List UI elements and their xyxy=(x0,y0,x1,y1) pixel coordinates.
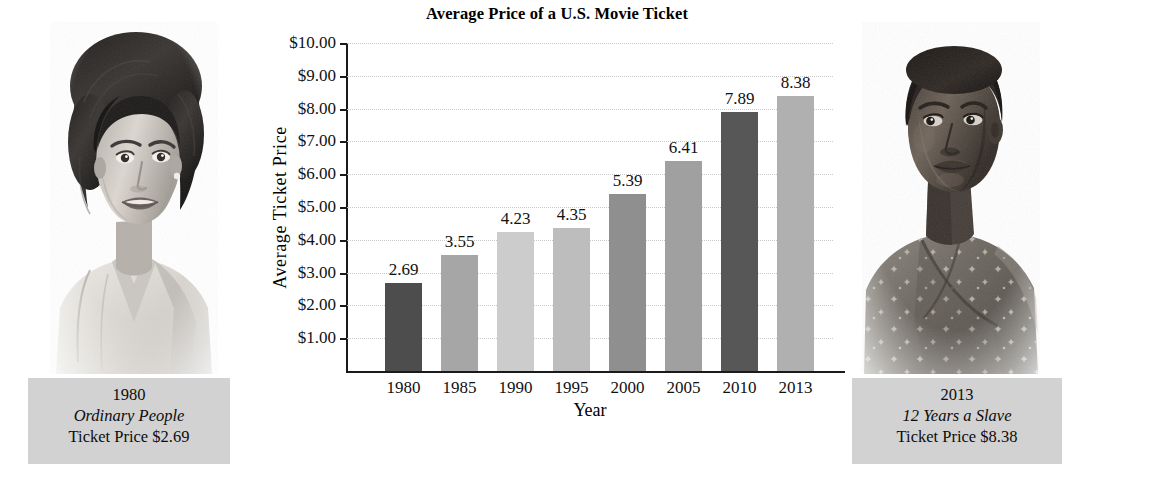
portrait-1980-illustration xyxy=(50,22,218,374)
x-axis-tick-label: 1980 xyxy=(387,378,421,398)
portrait-2013-illustration xyxy=(862,22,1040,374)
bar: 7.892010 xyxy=(721,112,758,371)
bar-value-label: 3.55 xyxy=(445,232,475,252)
y-axis-title-text: Average Ticket Price xyxy=(270,126,291,289)
y-axis-tick xyxy=(340,76,347,78)
bar-value-label: 4.35 xyxy=(557,205,587,225)
bar: 6.412005 xyxy=(665,161,702,371)
caption-ticket-price: Ticket Price $2.69 xyxy=(38,426,220,447)
caption-movie-title: Ordinary People xyxy=(38,405,220,426)
caption-2013: 2013 12 Years a Slave Ticket Price $8.38 xyxy=(852,378,1062,464)
plot-area: $10.00$9.00$8.00$7.00$6.00$5.00$4.00$3.0… xyxy=(347,43,833,371)
y-axis-tick xyxy=(340,305,347,307)
gridline xyxy=(347,109,833,110)
gridline xyxy=(347,273,833,274)
y-axis-tick xyxy=(340,240,347,242)
photo-ordinary-people xyxy=(50,22,218,374)
caption-ticket-price: Ticket Price $8.38 xyxy=(862,426,1052,447)
y-axis-tick xyxy=(340,207,347,209)
bar-value-label: 8.38 xyxy=(781,73,811,93)
x-axis-tick-label: 2010 xyxy=(723,378,757,398)
caption-year: 1980 xyxy=(38,384,220,405)
gridline xyxy=(347,207,833,208)
x-axis-title: Year xyxy=(347,400,833,421)
y-axis-tick-label: $8.00 xyxy=(298,99,336,119)
x-axis-tick-label: 2013 xyxy=(779,378,813,398)
x-axis-tick-label: 2000 xyxy=(611,378,645,398)
right-figure-panel: 2013 12 Years a Slave Ticket Price $8.38 xyxy=(852,0,1149,478)
gridline xyxy=(347,43,833,44)
y-axis-tick-label: $9.00 xyxy=(298,66,336,86)
bar: 3.551985 xyxy=(441,255,478,371)
y-axis-tick xyxy=(340,174,347,176)
y-axis-tick xyxy=(340,141,347,143)
gridline xyxy=(347,76,833,77)
y-axis-title: Average Ticket Price xyxy=(267,43,293,371)
x-axis-tick-label: 1985 xyxy=(443,378,477,398)
photo-12-years-a-slave xyxy=(862,22,1040,374)
bar-value-label: 4.23 xyxy=(501,209,531,229)
bar: 2.691980 xyxy=(385,283,422,371)
y-axis-tick-label: $2.00 xyxy=(298,295,336,315)
y-axis-tick-label: $10.00 xyxy=(289,33,336,53)
bar-value-label: 5.39 xyxy=(613,171,643,191)
y-axis-tick-label: $3.00 xyxy=(298,263,336,283)
bar: 8.382013 xyxy=(777,96,814,371)
caption-1980: 1980 Ordinary People Ticket Price $2.69 xyxy=(28,378,230,464)
y-axis-tick-label: $5.00 xyxy=(298,197,336,217)
y-axis-tick xyxy=(340,43,347,45)
gridline xyxy=(347,174,833,175)
caption-movie-title: 12 Years a Slave xyxy=(862,405,1052,426)
x-axis-tick-label: 1990 xyxy=(499,378,533,398)
x-axis-tick-label: 2005 xyxy=(667,378,701,398)
bar: 4.231990 xyxy=(497,232,534,371)
y-axis-tick-label: $6.00 xyxy=(298,164,336,184)
y-axis-tick xyxy=(340,109,347,111)
bar-value-label: 6.41 xyxy=(669,138,699,158)
x-axis-tick-label: 1995 xyxy=(555,378,589,398)
y-axis-tick xyxy=(340,338,347,340)
plot-inner: $10.00$9.00$8.00$7.00$6.00$5.00$4.00$3.0… xyxy=(347,43,833,371)
bar-value-label: 7.89 xyxy=(725,89,755,109)
chart-title: Average Price of a U.S. Movie Ticket xyxy=(262,4,852,24)
gridline xyxy=(347,240,833,241)
y-axis-tick-label: $4.00 xyxy=(298,230,336,250)
y-axis-tick-label: $7.00 xyxy=(298,131,336,151)
bar: 5.392000 xyxy=(609,194,646,371)
x-axis-line xyxy=(346,371,845,373)
bar-value-label: 2.69 xyxy=(389,260,419,280)
bar: 4.351995 xyxy=(553,228,590,371)
gridline xyxy=(347,141,833,142)
y-axis-tick-label: $1.00 xyxy=(298,328,336,348)
chart-panel: Average Price of a U.S. Movie Ticket Ave… xyxy=(262,0,852,478)
left-figure-panel: 1980 Ordinary People Ticket Price $2.69 xyxy=(0,0,262,478)
caption-year: 2013 xyxy=(862,384,1052,405)
y-axis-tick xyxy=(340,273,347,275)
